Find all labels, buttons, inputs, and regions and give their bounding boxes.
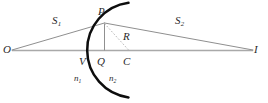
label-medium-n2-base: n: [109, 73, 114, 83]
incident-ray-op: [12, 23, 105, 50]
label-segment-s2-base: S: [175, 14, 181, 26]
label-segment-s1-sub: 1: [58, 20, 61, 27]
label-segment-s1-base: S: [52, 14, 58, 26]
label-medium-n2-sub: 2: [114, 78, 117, 84]
label-point-c: C: [123, 56, 130, 67]
label-medium-n2: n2: [109, 74, 116, 83]
label-medium-n1: n1: [74, 74, 81, 83]
diagram-canvas: [0, 0, 268, 103]
label-medium-n1-sub: 1: [79, 78, 82, 84]
label-radius-r: R: [123, 31, 130, 42]
label-segment-s1: S1: [52, 15, 61, 26]
label-segment-s2: S2: [175, 15, 184, 26]
label-point-q: Q: [97, 56, 105, 67]
label-segment-s2-sub: 2: [181, 20, 184, 27]
label-point-o: O: [3, 44, 11, 55]
label-point-p: P: [98, 6, 105, 17]
label-point-v: V: [79, 56, 86, 67]
label-medium-n1-base: n: [74, 73, 79, 83]
refraction-diagram: O P V Q C I S1 S2 R n1 n2: [0, 0, 268, 103]
label-point-i: I: [254, 44, 258, 55]
